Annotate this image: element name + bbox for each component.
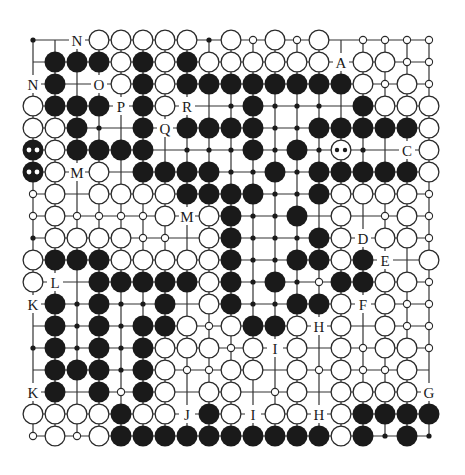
- white-stone: [265, 30, 285, 50]
- white-stone: [309, 52, 329, 72]
- black-stone: [155, 272, 176, 293]
- white-stone: [419, 118, 439, 138]
- dot-marker-icon: [272, 213, 277, 218]
- dot-marker-icon: [118, 323, 123, 328]
- point-label-m: M: [70, 165, 83, 181]
- open-point-marker-icon: [359, 344, 366, 351]
- dot-marker-icon: [272, 301, 277, 306]
- black-stone: [287, 140, 308, 161]
- black-stone: [89, 338, 110, 359]
- dot-marker-icon: [74, 323, 79, 328]
- black-stone: [199, 74, 220, 95]
- white-stone: [353, 382, 373, 402]
- dot-marker-icon: [272, 147, 277, 152]
- dot-marker-icon: [272, 103, 277, 108]
- open-point-marker-icon: [425, 190, 432, 197]
- black-stone: [67, 250, 88, 271]
- black-stone: [45, 52, 66, 73]
- white-stone: [419, 250, 439, 270]
- black-stone: [67, 360, 88, 381]
- open-point-marker-icon: [139, 212, 146, 219]
- white-stone: [375, 382, 395, 402]
- white-stone: [419, 96, 439, 116]
- dot-marker-icon: [250, 169, 255, 174]
- black-stone: [67, 118, 88, 139]
- black-stone: [111, 426, 132, 447]
- black-stone: [397, 118, 418, 139]
- dot-marker-icon: [74, 301, 79, 306]
- black-stone: [89, 360, 110, 381]
- open-point-marker-icon: [359, 366, 366, 373]
- black-stone: [177, 118, 198, 139]
- open-point-marker-icon: [95, 212, 102, 219]
- white-stone: [111, 250, 131, 270]
- black-stone: [177, 74, 198, 95]
- black-stone: [221, 294, 242, 315]
- black-stone: [243, 74, 264, 95]
- black-stone: [221, 118, 242, 139]
- black-stone: [133, 338, 154, 359]
- black-stone: [309, 294, 330, 315]
- white-stone: [45, 184, 65, 204]
- black-stone: [221, 228, 242, 249]
- white-stone: [287, 338, 307, 358]
- white-stone: [111, 228, 131, 248]
- dot-marker-icon: [118, 367, 123, 372]
- white-stone: [199, 52, 219, 72]
- white-stone: [331, 184, 351, 204]
- white-stone: [199, 250, 219, 270]
- open-point-marker-icon: [425, 322, 432, 329]
- black-stone: [375, 118, 396, 139]
- dot-marker-icon: [272, 125, 277, 130]
- white-stone: [23, 250, 43, 270]
- white-stone: [331, 250, 351, 270]
- black-stone: [309, 162, 330, 183]
- black-stone: [221, 206, 242, 227]
- black-stone: [331, 272, 352, 293]
- black-stone: [45, 360, 66, 381]
- white-stone: [221, 404, 241, 424]
- open-point-marker-icon: [425, 300, 432, 307]
- white-stone: [353, 184, 373, 204]
- point-label-r: R: [182, 99, 192, 115]
- white-stone: [45, 140, 65, 160]
- black-stone: [133, 316, 154, 337]
- black-stone: [265, 272, 286, 293]
- white-stone: [221, 382, 241, 402]
- white-stone: [375, 294, 395, 314]
- black-stone: [309, 74, 330, 95]
- point-label-d: D: [358, 231, 369, 247]
- black-stone: [155, 294, 176, 315]
- open-point-marker-icon: [425, 234, 432, 241]
- white-stone: [155, 382, 175, 402]
- black-stone: [221, 250, 242, 271]
- dot-marker-icon: [272, 191, 277, 196]
- white-stone: [375, 338, 395, 358]
- white-stone: [199, 228, 219, 248]
- dot-marker-icon: [316, 147, 321, 152]
- marked-black-stone: [23, 140, 44, 161]
- dot-marker-icon: [140, 301, 145, 306]
- point-label-n: N: [28, 77, 39, 93]
- white-stone: [45, 228, 65, 248]
- open-point-marker-icon: [117, 388, 124, 395]
- black-stone: [243, 140, 264, 161]
- open-point-marker-icon: [205, 322, 212, 329]
- white-stone: [23, 404, 43, 424]
- black-stone: [221, 426, 242, 447]
- black-stone: [199, 426, 220, 447]
- white-stone: [89, 162, 109, 182]
- white-stone: [221, 360, 241, 380]
- black-stone: [89, 316, 110, 337]
- open-point-marker-icon: [73, 432, 80, 439]
- white-stone: [45, 404, 65, 424]
- black-stone: [309, 228, 330, 249]
- dot-marker-icon: [206, 147, 211, 152]
- white-stone: [221, 316, 241, 336]
- white-stone: [375, 316, 395, 336]
- white-stone: [397, 338, 417, 358]
- dot-marker-icon: [294, 235, 299, 240]
- black-stone: [287, 250, 308, 271]
- open-point-marker-icon: [183, 366, 190, 373]
- white-stone: [287, 52, 307, 72]
